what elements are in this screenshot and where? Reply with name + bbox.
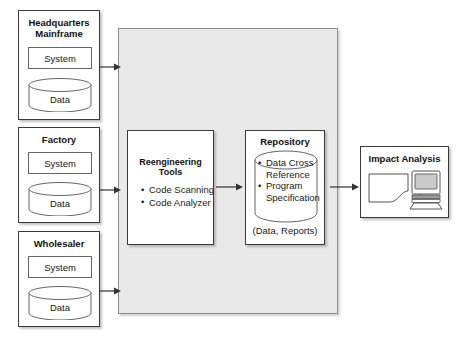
data-cylinder-headquarters[interactable]: Data [28,78,92,112]
source-title-line1: Factory [42,134,76,145]
arrow-headquarters-to-panel [100,58,122,76]
system-label: System [44,158,76,169]
computer-monitor-icon [410,171,442,209]
arrow-repository-to-impact [330,178,360,196]
arrow-factory-to-panel [100,181,122,199]
system-node-factory[interactable]: System [28,152,92,174]
system-node-headquarters[interactable]: System [28,47,92,69]
arrow-tools-to-repository [216,178,244,196]
reengineering-diagram: Headquarters Mainframe System Data Facto… [0,0,459,348]
repository-title: Repository [246,136,324,147]
system-label: System [44,53,76,64]
reengineering-tools-title: Reengineering Tools [128,157,213,177]
repository-box[interactable]: Repository Data Cross Reference Program … [245,130,325,245]
bullet-item: Program Specification [258,180,328,203]
impact-analysis-artwork [368,169,444,215]
system-label: System [44,262,76,273]
source-title-headquarters: Headquarters Mainframe [19,17,99,39]
impact-analysis-box[interactable]: Impact Analysis [360,146,449,218]
source-title-factory: Factory [19,134,99,145]
data-label: Data [28,302,92,313]
source-box-wholesaler[interactable]: Wholesaler System Data [18,231,100,327]
data-label: Data [28,198,92,209]
data-cylinder-factory[interactable]: Data [28,182,92,216]
arrow-wholesaler-to-panel [100,282,122,300]
impact-analysis-title: Impact Analysis [361,153,448,164]
reengineering-tools-box[interactable]: Reengineering Tools Code Scanning Code A… [127,130,214,245]
source-title-line1: Wholesaler [34,238,85,249]
repository-bullets: Data Cross Reference Program Specificati… [258,157,328,203]
source-box-headquarters[interactable]: Headquarters Mainframe System Data [18,10,100,120]
source-title-line2: Mainframe [35,28,83,39]
report-page-icon [369,174,408,202]
bullet-item: Code Scanning [141,184,213,197]
source-box-factory[interactable]: Factory System Data [18,127,100,223]
bullet-item: Data Cross Reference [258,157,328,180]
reengineering-tools-bullets: Code Scanning Code Analyzer [141,184,213,209]
bullet-item: Code Analyzer [141,197,213,210]
source-title-line1: Headquarters [28,17,89,28]
source-title-wholesaler: Wholesaler [19,238,99,249]
system-node-wholesaler[interactable]: System [28,256,92,278]
data-label: Data [28,94,92,105]
repository-footer: (Data, Reports) [246,225,324,236]
data-cylinder-wholesaler[interactable]: Data [28,286,92,320]
